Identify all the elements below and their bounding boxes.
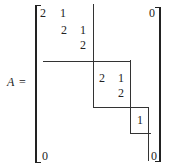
right-bracket bbox=[155, 7, 161, 162]
block2-left-divider bbox=[93, 61, 94, 108]
matrix-zero-entry: 0 bbox=[42, 150, 48, 162]
matrix-entry: 1 bbox=[118, 72, 124, 84]
block3-right-divider bbox=[148, 107, 149, 161]
block2-right-divider bbox=[130, 60, 131, 134]
matrix-entry: 2 bbox=[40, 7, 46, 19]
block2-bottom-divider bbox=[93, 107, 149, 108]
left-bracket bbox=[35, 5, 41, 163]
matrix-entry: 1 bbox=[80, 24, 86, 36]
matrix-entry: 1 bbox=[60, 7, 66, 19]
block3-bottom-divider bbox=[130, 133, 151, 134]
block1-right-divider bbox=[93, 4, 94, 62]
matrix-zero-entry: 0 bbox=[149, 7, 155, 19]
matrix-entry: 2 bbox=[80, 39, 86, 51]
matrix-entry: 1 bbox=[137, 114, 143, 126]
matrix-zero-entry: 0 bbox=[151, 150, 157, 162]
matrix-name-label: A bbox=[7, 76, 14, 88]
block1-bottom-divider bbox=[43, 61, 131, 62]
matrix-entry: 2 bbox=[99, 72, 105, 84]
equals-sign: = bbox=[19, 76, 26, 88]
matrix-entry: 2 bbox=[61, 24, 67, 36]
matrix-entry: 2 bbox=[118, 87, 124, 99]
